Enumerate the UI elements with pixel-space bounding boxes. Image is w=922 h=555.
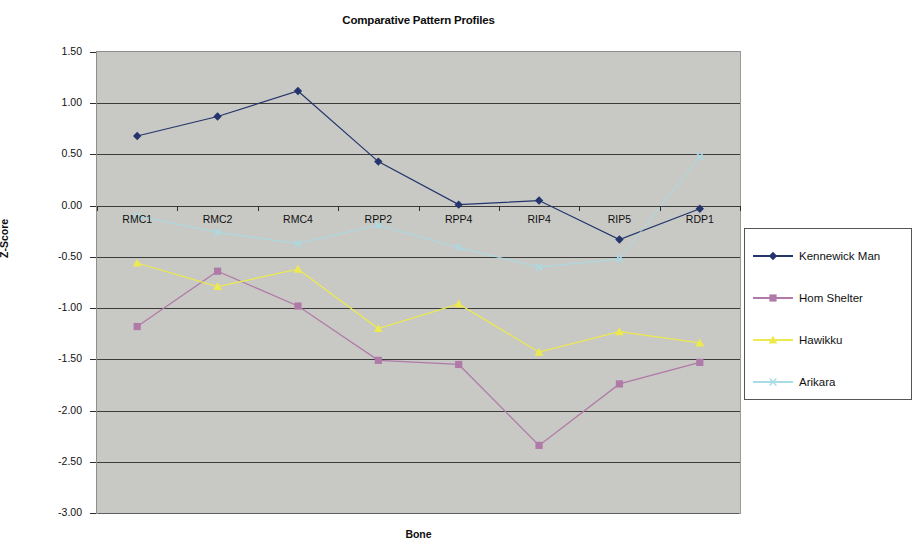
data-point-marker <box>294 302 301 309</box>
data-point-marker <box>133 259 142 267</box>
x-axis-tick <box>177 206 178 211</box>
x-axis-tick-label: RMC1 <box>122 213 152 225</box>
y-axis-tick-label: 0.00 <box>62 199 82 211</box>
x-axis-tick <box>579 206 580 211</box>
series-line <box>137 271 700 445</box>
legend-marker-square-icon <box>753 291 793 305</box>
legend-marker-triangle-icon <box>753 333 793 347</box>
y-axis-tick-label: 0.50 <box>62 147 82 159</box>
y-axis-tick-label: 1.00 <box>62 96 82 108</box>
x-axis-tick <box>97 206 98 211</box>
data-point-marker <box>696 359 703 366</box>
legend-swatch <box>753 291 793 305</box>
x-axis-tick <box>258 206 259 211</box>
legend: Kennewick ManHom ShelterHawikkuArikara <box>744 228 912 400</box>
data-point-marker <box>616 380 623 387</box>
data-point-marker <box>214 268 221 275</box>
chart-title: Comparative Pattern Profiles <box>97 14 740 26</box>
legend-item-hom-shelter[interactable]: Hom Shelter <box>745 287 911 309</box>
y-axis-tick <box>90 411 96 412</box>
y-axis-tick-label: -0.50 <box>58 250 82 262</box>
legend-swatch <box>753 249 793 263</box>
y-axis-tick <box>90 359 96 360</box>
y-axis-tick-label: -2.50 <box>58 455 82 467</box>
data-point-marker <box>535 196 543 204</box>
series-arikara <box>134 153 703 270</box>
y-axis-title: Z-Score <box>0 219 10 258</box>
legend-item-arikara[interactable]: Arikara <box>745 371 911 393</box>
legend-item-hawikku[interactable]: Hawikku <box>745 329 911 351</box>
x-axis-tick-label: RPP2 <box>365 213 392 225</box>
y-axis-tick <box>90 462 96 463</box>
y-axis-tick-label: -1.00 <box>58 301 82 313</box>
data-point-marker <box>455 361 462 368</box>
data-point-marker <box>134 323 141 330</box>
legend-item-kennewick-man[interactable]: Kennewick Man <box>745 245 911 267</box>
y-axis-tick-label: 1.50 <box>62 45 82 57</box>
x-axis-tick-label: RMC4 <box>283 213 313 225</box>
y-axis-tick <box>90 308 96 309</box>
y-axis-tick <box>90 154 96 155</box>
legend-swatch <box>753 375 793 389</box>
data-point-marker <box>454 300 463 308</box>
series-layer <box>97 52 740 513</box>
legend-label: Arikara <box>799 376 835 388</box>
x-axis-tick <box>499 206 500 211</box>
plot-area <box>97 52 740 513</box>
y-axis-tick <box>90 206 96 207</box>
legend-marker-diamond-icon <box>753 249 793 263</box>
data-point-marker <box>615 327 624 335</box>
data-point-marker <box>696 205 704 213</box>
legend-marker-x-icon <box>753 375 793 389</box>
data-point-marker <box>455 244 462 251</box>
y-axis-tick <box>90 513 96 514</box>
data-point-marker <box>213 112 221 120</box>
data-point-marker <box>535 442 542 449</box>
x-axis-tick-label: RPP4 <box>445 213 472 225</box>
data-point-marker <box>696 153 703 160</box>
x-axis-tick-label: RIP5 <box>608 213 631 225</box>
x-axis-tick <box>419 206 420 211</box>
x-axis-tick <box>338 206 339 211</box>
y-axis-tick <box>90 52 96 53</box>
x-axis-tick-label: RIP4 <box>527 213 550 225</box>
x-axis-tick-label: RMC2 <box>203 213 233 225</box>
y-axis-tick <box>90 257 96 258</box>
series-line <box>137 263 700 352</box>
data-point-marker <box>133 132 141 140</box>
series-hom-shelter <box>134 268 704 449</box>
series-line <box>137 156 700 267</box>
x-axis-tick <box>740 206 741 211</box>
legend-label: Kennewick Man <box>799 250 880 262</box>
y-axis-tick-label: -3.00 <box>58 506 82 518</box>
data-point-marker <box>615 235 623 243</box>
data-point-marker <box>294 265 303 273</box>
y-axis-tick <box>90 103 96 104</box>
y-axis-tick-label: -1.50 <box>58 352 82 364</box>
x-axis-tick <box>660 206 661 211</box>
legend-label: Hom Shelter <box>799 292 863 304</box>
y-axis-tick-label: -2.00 <box>58 404 82 416</box>
legend-label: Hawikku <box>799 334 842 346</box>
x-axis-tick-label: RDP1 <box>686 213 714 225</box>
x-axis-title: Bone <box>97 528 740 540</box>
data-point-marker <box>454 200 462 208</box>
chart-container: Comparative Pattern Profiles Z-Score Bon… <box>0 0 922 555</box>
legend-swatch <box>753 333 793 347</box>
data-point-marker <box>375 357 382 364</box>
